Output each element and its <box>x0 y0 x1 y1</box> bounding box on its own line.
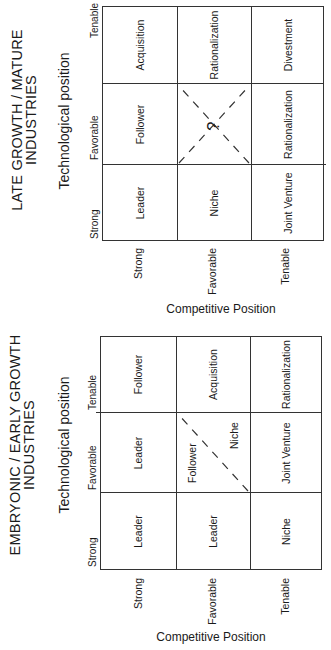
matrix1-cell-r3c3: Rationalization <box>250 336 322 413</box>
matrix1-cell-r1c3: Follower <box>100 336 176 413</box>
matrix1-col-favorable: Favorable <box>87 446 98 490</box>
matrix1-title-line2: INDUSTRIES <box>22 330 36 560</box>
matrix1-row-tenable: Tenable <box>279 578 291 630</box>
matrix2-col-tenable: Tenable <box>89 3 100 38</box>
matrix1-cell-r3c2: Joint Venture <box>250 413 322 493</box>
matrix2-title: LATE GROWTH / MATURE INDUSTRIES <box>10 0 38 240</box>
rotated-page: EMBRYONIC / EARLY GROWTH INDUSTRIES Tech… <box>0 0 331 650</box>
matrix2-col-favorable: Favorable <box>89 116 100 160</box>
matrix2-cell-r1c2: Follower <box>102 84 177 165</box>
matrix2-row-tenable: Tenable <box>279 248 291 300</box>
matrix1-split-follower: Follower <box>186 443 198 483</box>
matrix1-cell-r2c3: Acquisition <box>176 336 250 413</box>
matrix1-cell-r2c1: Leader <box>176 493 250 570</box>
matrix2-cell-r2c1: Niche <box>177 165 251 241</box>
matrix2-cell-r3c3: Divestment <box>251 6 324 84</box>
matrix2-title-line1: LATE GROWTH / MATURE <box>10 0 24 240</box>
matrix2-row-favorable: Favorable <box>206 248 218 300</box>
matrix2-cell-r3c2: Rationalization <box>251 84 324 165</box>
question-mark: ? <box>204 122 224 131</box>
matrix2-cell-r3c1: Joint Venture <box>251 165 324 241</box>
matrix1-row-favorable: Favorable <box>206 578 218 630</box>
matrix1-title: EMBRYONIC / EARLY GROWTH INDUSTRIES <box>8 330 36 560</box>
matrix2-title-line2: INDUSTRIES <box>24 0 38 240</box>
matrix2-cell-r2c3: Rationalization <box>177 6 251 84</box>
matrix1-tech-axis-title: Technological position <box>56 350 72 540</box>
matrix1-split-niche: Niche <box>228 422 240 449</box>
matrix2-cell-r1c3: Acquisition <box>102 6 177 84</box>
matrix1-cell-r3c1: Niche <box>250 493 322 570</box>
matrix1-col-tenable: Tenable <box>87 375 98 410</box>
matrix1-cell-r2c2-split: Follower Niche <box>176 413 250 493</box>
matrix1-cell-r1c1: Leader <box>100 493 176 570</box>
matrix1-cell-r1c2: Leader <box>100 413 176 493</box>
matrix2-col-strong: Strong <box>89 210 100 239</box>
matrix2-row-strong: Strong <box>132 248 144 300</box>
matrix1-row-strong: Strong <box>132 578 144 630</box>
matrix2-competitive-axis-title: Competitive Position <box>156 302 286 316</box>
matrix2-cell-r1c1: Leader <box>102 165 177 241</box>
matrix1-competitive-axis-title: Competitive Position <box>146 630 276 644</box>
matrix1-title-line1: EMBRYONIC / EARLY GROWTH <box>8 330 22 560</box>
matrix2-tech-axis-title: Technological position <box>56 26 72 216</box>
matrix1-col-strong: Strong <box>87 538 98 567</box>
matrix2-cell-r2c2-question: ? <box>177 84 251 165</box>
